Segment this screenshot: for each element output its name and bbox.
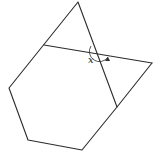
angle-label: x	[88, 54, 94, 65]
geometry-diagram: x	[0, 0, 154, 154]
transversal-line	[44, 45, 152, 63]
triangle-right-edge	[117, 63, 152, 107]
diagram-canvas: x	[0, 0, 154, 154]
pentagon-outline	[9, 2, 117, 150]
